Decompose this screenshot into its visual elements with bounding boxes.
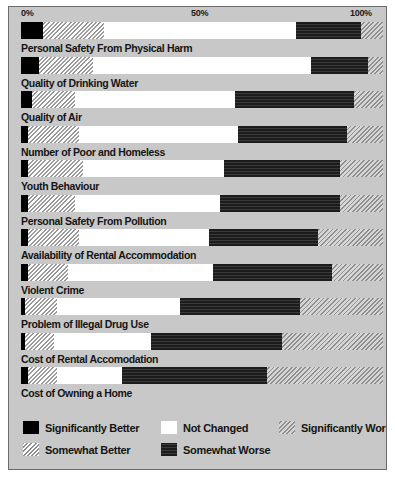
- bar-segment-som-worse: [220, 195, 339, 212]
- legend-swatch-significantly-worse: [279, 421, 295, 434]
- stacked-bar: [21, 126, 383, 143]
- stacked-bar: [21, 195, 383, 212]
- bar-segment-som-better: [28, 264, 68, 281]
- bar-segment-sig-worse: [332, 264, 383, 281]
- bar-segment-not-changed: [54, 333, 152, 350]
- bar-category-label: Cost of Rental Accomodation: [21, 351, 158, 367]
- bar-segment-sig-better: [21, 126, 28, 143]
- bar-segment-som-better: [28, 229, 79, 246]
- legend-item-significantly-worse: Significantly Worse: [279, 421, 387, 434]
- bar-segment-sig-better: [21, 22, 43, 39]
- bar-segment-not-changed: [104, 22, 296, 39]
- bar-segment-sig-worse: [347, 126, 383, 143]
- stacked-bar: [21, 91, 383, 108]
- bar-segment-som-worse: [235, 91, 354, 108]
- bar-segment-som-worse: [209, 229, 318, 246]
- bar-segment-som-better: [39, 57, 93, 74]
- bar-segment-not-changed: [75, 195, 220, 212]
- stacked-bar: [21, 264, 383, 281]
- bar-segment-som-worse: [151, 333, 281, 350]
- legend-label-significantly-better: Significantly Better: [45, 422, 139, 434]
- legend-swatch-somewhat-better: [23, 443, 39, 456]
- bar-segment-sig-worse: [340, 195, 383, 212]
- bar-category-label: Youth Behaviour: [21, 178, 99, 194]
- legend-swatch-significantly-better: [23, 421, 39, 434]
- legend-label-significantly-worse: Significantly Worse: [301, 422, 387, 434]
- stacked-bar: [21, 22, 383, 39]
- bar-segment-som-better: [25, 333, 54, 350]
- bar-category-label: Number of Poor and Homeless: [21, 144, 165, 160]
- stacked-bar: [21, 229, 383, 246]
- bar-segment-sig-worse: [282, 333, 383, 350]
- legend-label-somewhat-better: Somewhat Better: [45, 444, 130, 456]
- bar-segment-som-better: [28, 160, 82, 177]
- bar-segment-not-changed: [57, 298, 180, 315]
- bar-segment-som-worse: [180, 298, 299, 315]
- bar-category-label: Personal Safety From Pollution: [21, 213, 166, 229]
- bar-category-label: Personal Safety From Physical Harm: [21, 40, 192, 56]
- axis-tick-50: 50%: [191, 8, 208, 18]
- bar-segment-sig-worse: [318, 229, 383, 246]
- bar-segment-sig-better: [21, 367, 28, 384]
- bar-segment-not-changed: [57, 367, 122, 384]
- bar-category-label: Problem of Illegal Drug Use: [21, 316, 149, 332]
- bar-segment-som-worse: [238, 126, 347, 143]
- bar-segment-sig-worse: [368, 57, 382, 74]
- bar-segment-sig-better: [21, 229, 28, 246]
- axis-tick-100: 100%: [350, 8, 372, 18]
- legend-item-not-changed: Not Changed: [161, 421, 248, 434]
- bar-segment-sig-worse: [340, 160, 383, 177]
- bar-segment-sig-better: [21, 57, 39, 74]
- bar-segment-not-changed: [83, 160, 224, 177]
- bar-segment-sig-worse: [354, 91, 383, 108]
- legend-swatch-somewhat-worse: [161, 443, 177, 456]
- bar-segment-som-better: [43, 22, 105, 39]
- legend-item-somewhat-worse: Somewhat Worse: [161, 443, 270, 456]
- bar-segment-not-changed: [93, 57, 310, 74]
- bar-segment-som-better: [32, 91, 75, 108]
- bar-segment-som-better: [28, 126, 79, 143]
- chart-legend: Significantly Better Not Changed Signifi…: [21, 419, 379, 463]
- stacked-bar: [21, 333, 383, 350]
- stacked-bar: [21, 367, 383, 384]
- bar-segment-sig-worse: [267, 367, 383, 384]
- bar-segment-som-better: [28, 367, 57, 384]
- bar-segment-som-worse: [213, 264, 332, 281]
- bar-segment-not-changed: [79, 229, 209, 246]
- bar-segment-sig-better: [21, 195, 28, 212]
- bar-segment-sig-worse: [361, 22, 383, 39]
- legend-swatch-not-changed: [161, 421, 177, 434]
- x-axis: 0% 50% 100%: [9, 7, 386, 22]
- bar-category-label: Quality of Air: [21, 109, 82, 125]
- bar-segment-som-worse: [224, 160, 340, 177]
- stacked-bar: [21, 57, 383, 74]
- bar-segment-sig-worse: [300, 298, 383, 315]
- bar-segment-som-better: [25, 298, 58, 315]
- chart-frame: 0% 50% 100% Personal Safety From Physica…: [8, 6, 387, 470]
- bar-category-label: Availability of Rental Accommodation: [21, 247, 196, 263]
- stacked-bar: [21, 160, 383, 177]
- legend-item-somewhat-better: Somewhat Better: [23, 443, 130, 456]
- bar-segment-sig-better: [21, 264, 28, 281]
- bar-segment-not-changed: [79, 126, 238, 143]
- bar-segment-som-worse: [296, 22, 361, 39]
- bar-segment-not-changed: [68, 264, 213, 281]
- bar-segment-som-better: [28, 195, 75, 212]
- bar-segment-som-worse: [311, 57, 369, 74]
- bar-segment-sig-better: [21, 91, 32, 108]
- bar-category-label: Quality of Drinking Water: [21, 75, 138, 91]
- legend-label-somewhat-worse: Somewhat Worse: [183, 444, 270, 456]
- bar-segment-not-changed: [75, 91, 234, 108]
- bar-segment-sig-better: [21, 160, 28, 177]
- bar-category-label: Violent Crime: [21, 282, 84, 298]
- axis-tick-0: 0%: [21, 8, 33, 18]
- legend-item-significantly-better: Significantly Better: [23, 421, 139, 434]
- plot-area: Personal Safety From Physical HarmQualit…: [21, 22, 383, 402]
- bar-segment-som-worse: [122, 367, 267, 384]
- bar-category-label: Cost of Owning a Home: [21, 385, 132, 401]
- stacked-bar: [21, 298, 383, 315]
- legend-label-not-changed: Not Changed: [183, 422, 248, 434]
